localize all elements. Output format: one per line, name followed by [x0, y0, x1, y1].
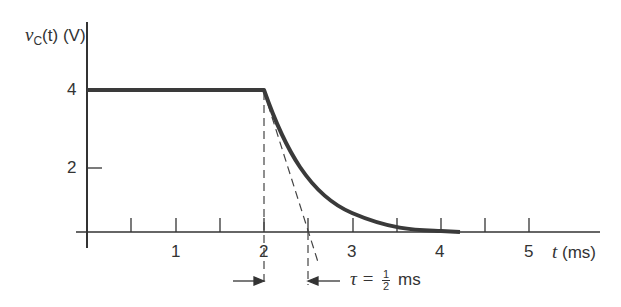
x-label-var: t	[552, 241, 557, 262]
y-label-sub: C	[33, 34, 42, 48]
y-tick-label-4: 4	[67, 80, 76, 100]
tau-annotation: τ = 1 2 ms	[350, 268, 421, 292]
x-label-unit: (ms)	[562, 243, 596, 262]
tau-fraction: 1 2	[382, 269, 390, 292]
x-tick-label-4: 4	[435, 242, 444, 262]
dashed-tangent-line	[264, 92, 318, 262]
tau-unit: ms	[398, 270, 421, 289]
x-axis-label: t (ms)	[552, 241, 596, 263]
voltage-curve	[87, 90, 460, 232]
x-ticks	[131, 218, 529, 232]
x-tick-label-2: 2	[259, 242, 268, 262]
x-tick-label-1: 1	[171, 242, 180, 262]
tau-symbol: τ =	[350, 268, 374, 289]
y-label-rest: (t) (V)	[42, 26, 85, 45]
x-tick-label-5: 5	[524, 242, 533, 262]
tau-denominator: 2	[382, 281, 390, 292]
y-tick-label-2: 2	[67, 158, 76, 178]
y-axis-label: vC(t) (V)	[25, 24, 86, 48]
x-tick-label-3: 3	[347, 242, 356, 262]
tau-arrows	[233, 277, 340, 285]
